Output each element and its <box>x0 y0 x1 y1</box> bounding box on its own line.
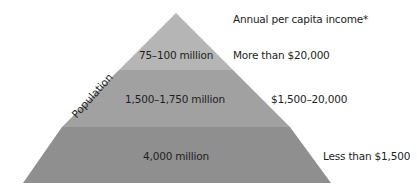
tier-middle-population: 1,500–1,750 million <box>125 93 225 105</box>
tier-middle-income: $1,500–20,000 <box>271 93 347 105</box>
income-header: Annual per capita income* <box>233 13 368 25</box>
tier-bottom-income: Less than $1,500 <box>323 150 410 162</box>
tier-top-population: 75–100 million <box>139 49 213 61</box>
tier-top-income: More than $20,000 <box>233 49 330 61</box>
tier-top <box>119 13 233 70</box>
tier-bottom-population: 4,000 million <box>143 150 209 162</box>
